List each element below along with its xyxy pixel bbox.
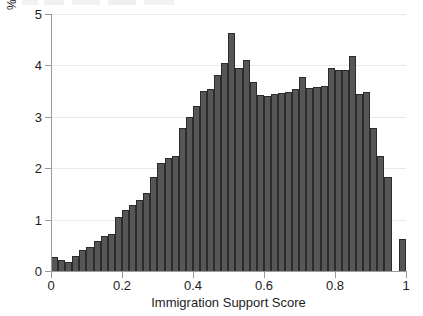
y-tick-label-0: 0 bbox=[22, 265, 42, 278]
histogram-bar bbox=[72, 256, 79, 271]
x-tick-label-0-4: 0.4 bbox=[173, 279, 213, 292]
y-tick-label-3: 3 bbox=[22, 111, 42, 124]
histogram-bar bbox=[299, 77, 306, 271]
histogram-bar bbox=[243, 60, 250, 271]
scan-artifact bbox=[8, 0, 188, 5]
y-tick-mark-5 bbox=[45, 14, 51, 15]
histogram-bar bbox=[328, 68, 335, 271]
histogram-bar bbox=[250, 82, 257, 271]
histogram-bar bbox=[150, 177, 157, 271]
histogram-bar bbox=[271, 94, 278, 271]
histogram-bar bbox=[278, 93, 285, 271]
y-tick-mark-4 bbox=[45, 65, 51, 66]
histogram-bar bbox=[207, 89, 214, 271]
y-tick-label-5: 5 bbox=[22, 8, 42, 21]
y-tick-label-4: 4 bbox=[22, 59, 42, 72]
histogram-bar bbox=[122, 210, 129, 271]
x-tick-label-0: 0 bbox=[31, 279, 71, 292]
histogram-bar bbox=[165, 158, 172, 271]
histogram-bars bbox=[51, 14, 406, 271]
plot-area bbox=[51, 14, 406, 271]
histogram-bar bbox=[193, 106, 200, 272]
histogram-bar bbox=[65, 262, 72, 271]
histogram-bar bbox=[143, 193, 150, 271]
histogram-bar bbox=[335, 70, 342, 271]
histogram-bar bbox=[228, 33, 235, 271]
y-tick-label-2: 2 bbox=[22, 162, 42, 175]
histogram-bar bbox=[321, 86, 328, 271]
histogram-bar bbox=[115, 217, 122, 271]
y-axis-line bbox=[51, 14, 52, 272]
histogram-bar bbox=[221, 63, 228, 271]
y-tick-mark-3 bbox=[45, 117, 51, 118]
histogram-bar bbox=[129, 205, 136, 271]
y-tick-mark-2 bbox=[45, 168, 51, 169]
histogram-bar bbox=[257, 95, 264, 271]
histogram-bar bbox=[186, 117, 193, 271]
histogram-bar bbox=[200, 91, 207, 271]
histogram-bar bbox=[172, 156, 179, 271]
x-tick-label-0-2: 0.2 bbox=[102, 279, 142, 292]
histogram-bar bbox=[313, 87, 320, 271]
histogram-bar bbox=[264, 96, 271, 271]
x-tick-label-1: 1 bbox=[386, 279, 423, 292]
histogram-bar bbox=[356, 94, 363, 271]
histogram-bar bbox=[306, 88, 313, 271]
x-axis-title: Immigration Support Score bbox=[51, 296, 406, 309]
histogram-bar bbox=[58, 260, 65, 271]
histogram-bar bbox=[292, 89, 299, 271]
histogram-bar bbox=[399, 239, 406, 271]
histogram-bar bbox=[384, 177, 391, 271]
histogram-bar bbox=[157, 163, 164, 271]
x-tick-label-0-8: 0.8 bbox=[315, 279, 355, 292]
histogram-bar bbox=[363, 92, 370, 271]
histogram-bar bbox=[370, 128, 377, 271]
x-tick-label-0-6: 0.6 bbox=[244, 279, 284, 292]
histogram-bar bbox=[136, 200, 143, 271]
histogram-bar bbox=[235, 68, 242, 271]
histogram-bar bbox=[101, 236, 108, 271]
histogram-bar bbox=[94, 241, 101, 271]
y-tick-label-1: 1 bbox=[22, 214, 42, 227]
histogram-bar bbox=[79, 250, 86, 271]
histogram-bar bbox=[377, 156, 384, 271]
y-tick-mark-1 bbox=[45, 220, 51, 221]
x-axis-line bbox=[51, 271, 407, 272]
histogram-figure: 5 4 3 2 1 0 0 0.2 0.4 0.6 0.8 1 % Immigr… bbox=[0, 0, 423, 316]
histogram-bar bbox=[108, 234, 115, 271]
histogram-bar bbox=[179, 128, 186, 271]
y-axis-title: % bbox=[5, 0, 19, 10]
histogram-bar bbox=[342, 70, 349, 271]
histogram-bar bbox=[86, 247, 93, 271]
histogram-bar bbox=[214, 75, 221, 271]
histogram-bar bbox=[285, 92, 292, 271]
histogram-bar bbox=[349, 56, 356, 271]
